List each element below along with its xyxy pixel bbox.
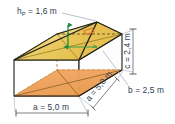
label-pyramid-height-value: 1,6 m — [35, 6, 56, 16]
label-depth: b = 2,5 m — [128, 85, 164, 95]
label-prism-height: c = 2,4 m — [122, 33, 132, 69]
figure-canvas: c = 2,4 m a = 5,0 m a = 5,0 m hP = 1,6 m… — [0, 0, 175, 124]
geometry-figure-pyramid-on-prism: c = 2,4 m a = 5,0 m a = 5,0 m hP = 1,6 m… — [0, 0, 175, 124]
label-depth-group: b = 2,5 m — [128, 85, 164, 95]
label-width-front: a = 5,0 m — [33, 102, 69, 112]
